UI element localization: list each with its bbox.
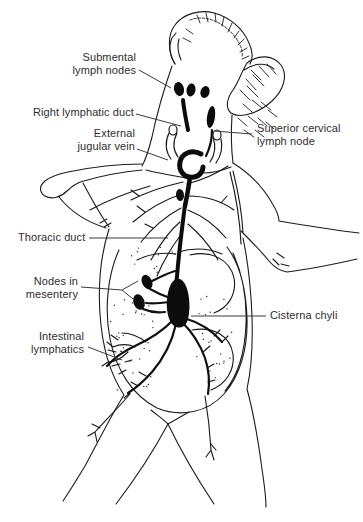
jugular-confluence	[180, 152, 203, 177]
leader-right-lymphatic-duct	[136, 114, 181, 126]
inner-hindlegs-outline	[116, 410, 214, 504]
right-torso-hindleg-outline	[243, 238, 266, 507]
intestinal-branch-right	[182, 322, 209, 394]
leader-external-jugular	[137, 149, 168, 160]
submental-node-1	[172, 81, 185, 97]
external-jugular-veins	[166, 125, 222, 163]
label-cisterna-chyli: Cisterna chyli	[270, 309, 360, 322]
label-thoracic-duct: Thoracic duct	[18, 231, 98, 244]
figure-canvas: Submental lymph nodes Right lymphatic du…	[0, 0, 363, 522]
leader-submental	[139, 70, 171, 88]
cisterna-chyli-blob	[167, 279, 190, 328]
ear-outline	[227, 57, 284, 116]
intestinal-branch-lower-left	[128, 324, 176, 393]
right-lymphatic-duct-vessel	[183, 100, 188, 130]
bowel-loop-upper	[190, 254, 235, 313]
lymphatic-system-illustration	[0, 0, 363, 522]
submental-node-2	[185, 83, 196, 97]
label-superior-cervical-lymph-node: Superior cervical lymph node	[257, 122, 357, 147]
lymph-nodes	[131, 81, 216, 328]
label-external-jugular-vein: External jugular vein	[40, 127, 135, 152]
animal-body-outline	[41, 12, 360, 507]
label-submental-lymph-nodes: Submental lymph nodes	[50, 51, 136, 76]
right-foreleg-outline	[233, 163, 359, 272]
submental-node-3	[199, 85, 211, 99]
left-leg-vessel	[88, 394, 130, 442]
left-foreleg-outline	[41, 164, 143, 228]
label-intestinal-lymphatics: Intestinal lymphatics	[12, 330, 84, 355]
fur-hatching	[183, 13, 277, 137]
superior-cervical-node	[206, 106, 217, 129]
label-right-lymphatic-duct: Right lymphatic duct	[23, 106, 134, 119]
superior-cervical-outflow	[206, 130, 212, 156]
duct-node	[175, 189, 184, 202]
snout-outline	[170, 33, 181, 64]
label-nodes-in-mesentery: Nodes in mesentery	[11, 275, 78, 300]
